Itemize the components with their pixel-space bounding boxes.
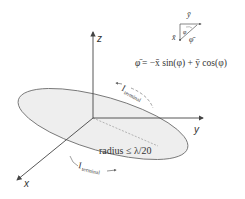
upper-current-subscript: terminal bbox=[123, 89, 142, 103]
phi-hat-formula: φ̄ = −x̄ sin(φ) + ȳ cos(φ) bbox=[135, 58, 227, 69]
lower-terminal-current: I terminal bbox=[70, 156, 116, 176]
z-axis-label: z bbox=[96, 33, 102, 44]
y-axis-label: y bbox=[193, 124, 200, 135]
x-axis-label: x bbox=[23, 178, 30, 189]
formula-rhs: = −x̄ sin(φ) + ȳ cos(φ) bbox=[142, 58, 227, 69]
inset-y-hat: ȳ bbox=[186, 10, 191, 19]
lower-current-subscript: terminal bbox=[81, 166, 101, 176]
antenna-diagram: z y x radius ≤ λ/20 I terminal I termina… bbox=[0, 0, 245, 199]
radius-label: radius ≤ λ/20 bbox=[99, 145, 152, 156]
disk bbox=[11, 74, 195, 174]
inset-phi-hat: φ̄ bbox=[189, 35, 195, 44]
inset-x-hat: x̄ bbox=[171, 33, 176, 42]
inset-phi-diagram: ȳ x̄ φ φ̄ bbox=[171, 10, 201, 44]
